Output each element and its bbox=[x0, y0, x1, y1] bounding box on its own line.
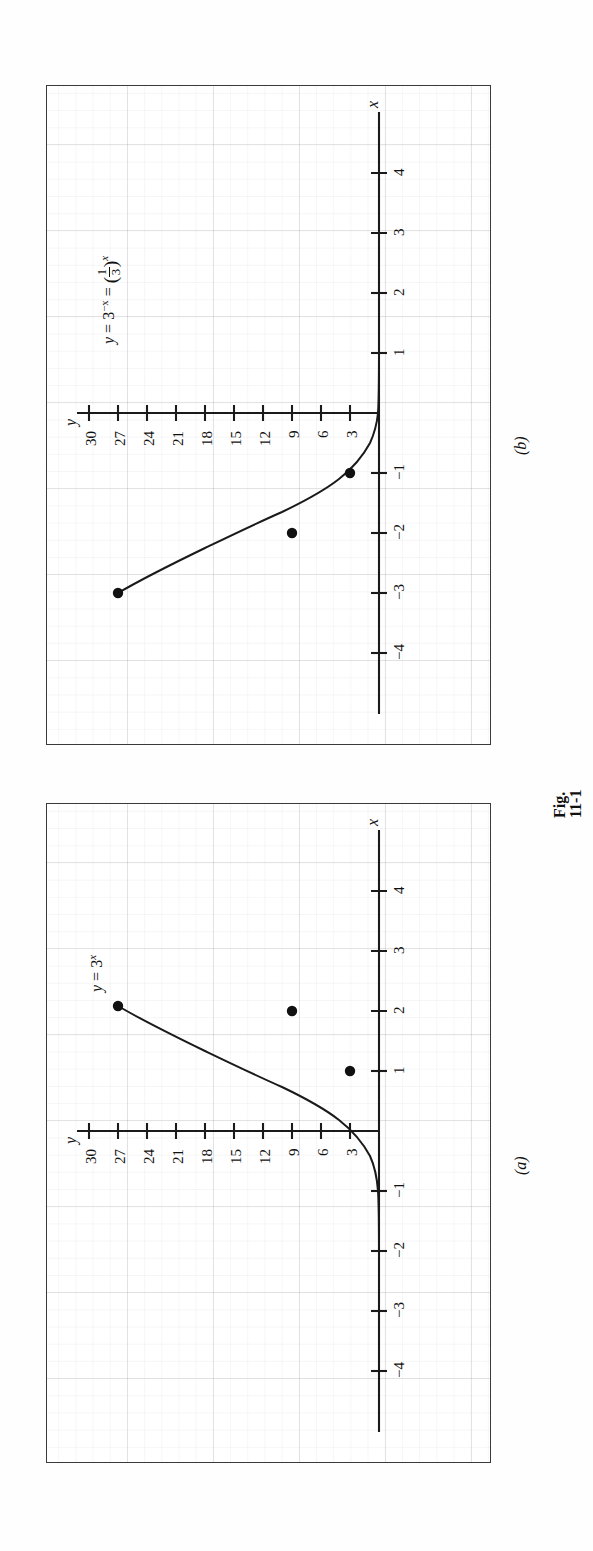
x-tick-label-a-6: 3 bbox=[392, 947, 407, 955]
curve-b bbox=[118, 173, 379, 593]
x-tick-label-b-0: −4 bbox=[392, 644, 407, 660]
curve-a-base: 3 bbox=[88, 960, 105, 968]
x-tick-label-a-0: −4 bbox=[392, 1362, 407, 1378]
y-tick-label-a-7: 24 bbox=[142, 1149, 157, 1164]
panel-a: −4 −3 −2 −1 1 2 3 4 3 6 9 12 15 18 21 24… bbox=[46, 803, 491, 1463]
curve-a-exp1: x bbox=[86, 955, 98, 960]
y-axis-label-b: y bbox=[63, 419, 79, 426]
x-tick-label-b-4: 1 bbox=[392, 349, 407, 357]
scanned-page: −4 −3 −2 −1 1 2 3 4 3 6 9 12 15 18 21 24… bbox=[0, 0, 593, 1551]
curve-equation-label-b: y = 3−x = (13)x bbox=[97, 256, 124, 344]
curve-a bbox=[118, 1006, 379, 1371]
curve-b-frac-den: 3 bbox=[110, 267, 123, 276]
sub-caption-b: (b) bbox=[513, 436, 529, 455]
curve-b-fraction: 13 bbox=[96, 267, 123, 276]
plot-a bbox=[47, 802, 492, 1462]
y-tick-label-b-9: 30 bbox=[84, 431, 99, 446]
x-tick-label-b-5: 2 bbox=[392, 289, 407, 297]
y-tick-label-a-5: 18 bbox=[200, 1149, 215, 1164]
curve-b-eq2: = bbox=[100, 287, 117, 296]
data-points-b bbox=[113, 468, 355, 598]
x-tick-label-a-7: 4 bbox=[392, 887, 407, 895]
curve-a-lhs: y bbox=[88, 985, 105, 992]
x-tick-label-a-2: −2 bbox=[392, 1242, 407, 1258]
plot-b bbox=[47, 84, 492, 744]
y-tick-label-a-4: 15 bbox=[229, 1149, 244, 1164]
y-tick-label-b-2: 9 bbox=[287, 431, 302, 439]
x-tick-label-a-5: 2 bbox=[392, 1007, 407, 1015]
y-tick-label-b-8: 27 bbox=[113, 431, 128, 446]
curve-b-exp2: x bbox=[98, 256, 110, 261]
y-tick-label-a-1: 6 bbox=[316, 1149, 331, 1157]
x-tick-label-a-1: −3 bbox=[392, 1302, 407, 1318]
panel-a-frame: −4 −3 −2 −1 1 2 3 4 3 6 9 12 15 18 21 24… bbox=[46, 803, 491, 1463]
y-tick-label-b-0: 3 bbox=[345, 431, 360, 439]
x-tick-label-b-7: 4 bbox=[392, 169, 407, 177]
x-tick-label-a-3: −1 bbox=[392, 1182, 407, 1198]
curve-b-frac-num: 1 bbox=[96, 267, 110, 276]
x-tick-label-b-2: −2 bbox=[392, 524, 407, 540]
y-tick-label-b-6: 21 bbox=[171, 431, 186, 446]
y-tick-label-a-6: 21 bbox=[171, 1149, 186, 1164]
y-tick-label-b-7: 24 bbox=[142, 431, 157, 446]
x-axis-label-a: x bbox=[365, 819, 381, 826]
curve-equation-label-a: y = 3x bbox=[87, 955, 105, 992]
y-tick-label-b-4: 15 bbox=[229, 431, 244, 446]
curve-b-exp1: −x bbox=[98, 300, 110, 312]
y-tick-label-b-1: 6 bbox=[316, 431, 331, 439]
y-tick-label-b-3: 12 bbox=[258, 431, 273, 446]
panel-b-frame: −4 −3 −2 −1 1 2 3 4 3 6 9 12 15 18 21 24… bbox=[46, 85, 491, 745]
sub-caption-a: (a) bbox=[513, 1156, 529, 1175]
x-tick-label-b-6: 3 bbox=[392, 229, 407, 237]
x-tick-label-b-1: −3 bbox=[392, 584, 407, 600]
x-axis-label-b: x bbox=[365, 101, 381, 108]
panel-b: −4 −3 −2 −1 1 2 3 4 3 6 9 12 15 18 21 24… bbox=[46, 85, 491, 745]
y-tick-label-a-0: 3 bbox=[345, 1149, 360, 1157]
y-tick-label-b-5: 18 bbox=[200, 431, 215, 446]
y-tick-label-a-3: 12 bbox=[258, 1149, 273, 1164]
y-tick-label-a-9: 30 bbox=[84, 1149, 99, 1164]
curve-b-open-paren: ( bbox=[100, 277, 121, 284]
x-tick-label-a-4: 1 bbox=[392, 1067, 407, 1075]
y-tick-label-a-2: 9 bbox=[287, 1149, 302, 1157]
curve-a-eq1: = bbox=[88, 972, 105, 981]
x-tick-label-b-3: −1 bbox=[392, 464, 407, 480]
curve-b-lhs: y bbox=[100, 337, 117, 344]
y-tick-label-a-8: 27 bbox=[113, 1149, 128, 1164]
y-axis-label-a: y bbox=[63, 1137, 79, 1144]
curve-b-eq1: = bbox=[100, 324, 117, 333]
curve-b-base: 3 bbox=[100, 312, 117, 320]
figure-caption: Fig. 11-1 bbox=[552, 777, 584, 818]
